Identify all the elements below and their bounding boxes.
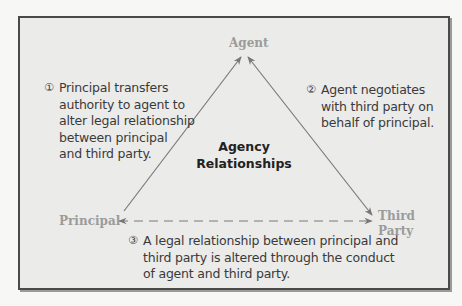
note-3-line: third party is altered through the condu… — [143, 250, 398, 267]
edge-agent-third-party — [248, 57, 372, 215]
note-2-line: with third party on — [321, 99, 434, 116]
number-1-icon: ① — [44, 80, 54, 97]
diagram-title-line-1: Agency — [194, 138, 294, 155]
node-agent: Agent — [229, 36, 269, 51]
diagram-title: Agency Relationships — [194, 138, 294, 172]
note-2-line: behalf of principal. — [321, 115, 434, 132]
note-1-line: alter legal relationship — [59, 113, 195, 130]
note-3-line: A legal relationship between principal a… — [143, 233, 398, 250]
note-1: ① Principal transfers authority to agent… — [59, 80, 195, 163]
node-principal: Principal — [59, 214, 120, 229]
note-3-line: of agent and third party. — [143, 266, 398, 283]
number-3-icon: ③ — [128, 233, 138, 250]
note-1-line: between principal — [59, 130, 195, 147]
note-3: ③ A legal relationship between principal… — [143, 233, 398, 283]
note-2: ② Agent negotiates with third party on b… — [321, 82, 434, 132]
number-2-icon: ② — [306, 82, 316, 99]
diagram-title-line-2: Relationships — [194, 155, 294, 172]
note-1-line: Principal transfers — [59, 80, 195, 97]
note-1-line: and third party. — [59, 146, 195, 163]
note-1-line: authority to agent to — [59, 97, 195, 114]
note-2-line: Agent negotiates — [321, 82, 434, 99]
node-third-party-line-1: Third — [378, 209, 415, 224]
